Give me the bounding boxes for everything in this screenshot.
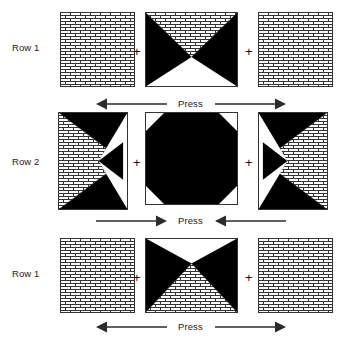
- press-arrow-row-1-label: Press: [174, 98, 207, 109]
- hourglass-block-top: [145, 12, 238, 87]
- press-arrow-row-3-label: Press: [174, 321, 207, 332]
- brick-square-block: [60, 238, 135, 313]
- hourglass-block-bottom: [145, 238, 238, 313]
- brick-square-block: [258, 238, 333, 313]
- join-plus: +: [133, 271, 141, 284]
- snowball-octagon-block: [145, 112, 238, 205]
- row-label-3: Row 1: [12, 268, 39, 279]
- brick-square-block: [258, 12, 333, 87]
- quarter-triangle-block-left: [58, 112, 128, 210]
- row-label-2: Row 2: [12, 156, 39, 167]
- quarter-triangle-block-left: [58, 112, 128, 210]
- quarter-triangle-block-right: [258, 112, 328, 210]
- brick-square-block: [60, 12, 135, 87]
- brick-square-block: [258, 12, 333, 87]
- brick-square-block: [60, 12, 135, 87]
- snowball-octagon-block: [145, 112, 238, 205]
- join-plus: +: [245, 156, 253, 169]
- brick-square-block: [60, 238, 135, 313]
- quarter-triangle-block-right: [258, 112, 328, 210]
- join-plus: +: [245, 45, 253, 58]
- brick-square-block: [258, 238, 333, 313]
- row-label-1: Row 1: [12, 42, 39, 53]
- join-plus: +: [133, 156, 141, 169]
- hourglass-block-bottom: [145, 238, 238, 313]
- join-plus: +: [133, 45, 141, 58]
- join-plus: +: [245, 271, 253, 284]
- press-arrow-row-2-label: Press: [174, 215, 207, 226]
- hourglass-block-top: [145, 12, 238, 87]
- quilt-assembly-diagram: Row 1++PressRow 2++PressRow 1++Press: [0, 0, 345, 344]
